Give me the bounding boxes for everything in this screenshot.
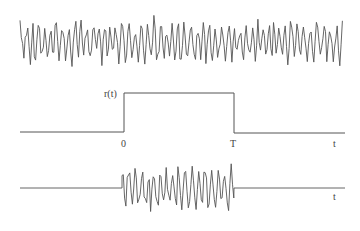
- axis-t-label-middle: t: [333, 138, 336, 149]
- axis-t-label-bottom: t: [333, 191, 336, 202]
- windowed-noise-waveform: [20, 164, 345, 212]
- window-function: [20, 93, 345, 133]
- noise-waveform: [20, 15, 342, 66]
- tick-T-label: T: [230, 138, 236, 149]
- tick-zero-label: 0: [121, 138, 126, 149]
- diagram-canvas: r(t) 0 T t t: [0, 0, 360, 231]
- window-label: r(t): [104, 88, 117, 100]
